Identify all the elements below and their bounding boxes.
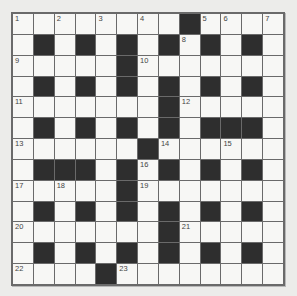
grid-cell[interactable] — [201, 139, 221, 159]
grid-cell[interactable] — [221, 56, 241, 76]
grid-cell[interactable] — [55, 264, 75, 284]
grid-cell[interactable] — [96, 139, 116, 159]
grid-cell[interactable] — [263, 181, 283, 201]
grid-cell[interactable] — [221, 222, 241, 242]
grid-cell[interactable]: 9 — [13, 56, 33, 76]
grid-cell[interactable] — [263, 139, 283, 159]
grid-cell[interactable] — [159, 14, 179, 34]
grid-cell[interactable] — [76, 56, 96, 76]
grid-cell[interactable] — [221, 97, 241, 117]
grid-cell[interactable] — [242, 181, 262, 201]
grid-cell[interactable] — [201, 222, 221, 242]
grid-cell[interactable]: 21 — [180, 222, 200, 242]
grid-cell[interactable] — [263, 243, 283, 263]
grid-cell[interactable] — [138, 243, 158, 263]
grid-cell[interactable]: 10 — [138, 56, 158, 76]
grid-cell[interactable]: 16 — [138, 160, 158, 180]
grid-cell[interactable] — [34, 14, 54, 34]
grid-cell[interactable] — [55, 56, 75, 76]
grid-cell[interactable]: 23 — [117, 264, 137, 284]
grid-cell[interactable]: 14 — [159, 139, 179, 159]
grid-cell[interactable] — [263, 160, 283, 180]
grid-cell[interactable] — [76, 97, 96, 117]
grid-cell[interactable]: 4 — [138, 14, 158, 34]
grid-cell[interactable] — [263, 202, 283, 222]
grid-cell[interactable] — [263, 118, 283, 138]
grid-cell[interactable] — [138, 97, 158, 117]
grid-cell[interactable]: 11 — [13, 97, 33, 117]
grid-cell[interactable] — [201, 56, 221, 76]
grid-cell[interactable] — [242, 222, 262, 242]
grid-cell[interactable]: 13 — [13, 139, 33, 159]
grid-cell[interactable] — [159, 264, 179, 284]
grid-cell[interactable] — [76, 264, 96, 284]
grid-cell[interactable] — [55, 77, 75, 97]
grid-cell[interactable] — [55, 222, 75, 242]
grid-cell[interactable] — [242, 97, 262, 117]
grid-cell[interactable] — [96, 222, 116, 242]
grid-cell[interactable] — [34, 181, 54, 201]
grid-cell[interactable] — [138, 202, 158, 222]
grid-cell[interactable] — [263, 77, 283, 97]
grid-cell[interactable]: 20 — [13, 222, 33, 242]
grid-cell[interactable] — [242, 264, 262, 284]
grid-cell[interactable] — [221, 243, 241, 263]
grid-cell[interactable]: 15 — [221, 139, 241, 159]
grid-cell[interactable] — [13, 160, 33, 180]
grid-cell[interactable]: 22 — [13, 264, 33, 284]
grid-cell[interactable] — [55, 97, 75, 117]
grid-cell[interactable] — [34, 139, 54, 159]
grid-cell[interactable] — [96, 181, 116, 201]
grid-cell[interactable] — [221, 181, 241, 201]
grid-cell[interactable] — [180, 139, 200, 159]
grid-cell[interactable] — [96, 160, 116, 180]
grid-cell[interactable] — [96, 97, 116, 117]
grid-cell[interactable] — [96, 35, 116, 55]
grid-cell[interactable] — [138, 77, 158, 97]
grid-cell[interactable] — [76, 14, 96, 34]
grid-cell[interactable] — [159, 181, 179, 201]
grid-cell[interactable] — [242, 56, 262, 76]
grid-cell[interactable] — [263, 222, 283, 242]
grid-cell[interactable] — [201, 97, 221, 117]
grid-cell[interactable] — [13, 243, 33, 263]
grid-cell[interactable] — [242, 139, 262, 159]
grid-cell[interactable] — [76, 181, 96, 201]
grid-cell[interactable] — [180, 243, 200, 263]
grid-cell[interactable]: 2 — [55, 14, 75, 34]
grid-cell[interactable] — [117, 14, 137, 34]
grid-cell[interactable] — [55, 202, 75, 222]
grid-cell[interactable]: 12 — [180, 97, 200, 117]
grid-cell[interactable] — [55, 35, 75, 55]
grid-cell[interactable] — [55, 243, 75, 263]
grid-cell[interactable] — [138, 264, 158, 284]
grid-cell[interactable] — [201, 264, 221, 284]
grid-cell[interactable] — [138, 222, 158, 242]
grid-cell[interactable] — [96, 202, 116, 222]
grid-cell[interactable] — [221, 264, 241, 284]
grid-cell[interactable] — [76, 139, 96, 159]
grid-cell[interactable]: 18 — [55, 181, 75, 201]
grid-cell[interactable] — [180, 264, 200, 284]
grid-cell[interactable] — [263, 264, 283, 284]
grid-cell[interactable] — [34, 222, 54, 242]
grid-cell[interactable]: 5 — [201, 14, 221, 34]
grid-cell[interactable] — [221, 35, 241, 55]
grid-cell[interactable] — [34, 264, 54, 284]
grid-cell[interactable] — [96, 77, 116, 97]
grid-cell[interactable]: 19 — [138, 181, 158, 201]
grid-cell[interactable] — [117, 97, 137, 117]
grid-cell[interactable] — [263, 35, 283, 55]
grid-cell[interactable]: 17 — [13, 181, 33, 201]
grid-cell[interactable] — [180, 181, 200, 201]
grid-cell[interactable] — [34, 97, 54, 117]
grid-cell[interactable] — [221, 77, 241, 97]
grid-cell[interactable] — [180, 202, 200, 222]
grid-cell[interactable] — [263, 97, 283, 117]
grid-cell[interactable] — [76, 222, 96, 242]
grid-cell[interactable] — [263, 56, 283, 76]
grid-cell[interactable] — [96, 56, 116, 76]
grid-cell[interactable] — [180, 118, 200, 138]
grid-cell[interactable] — [180, 160, 200, 180]
grid-cell[interactable] — [159, 56, 179, 76]
